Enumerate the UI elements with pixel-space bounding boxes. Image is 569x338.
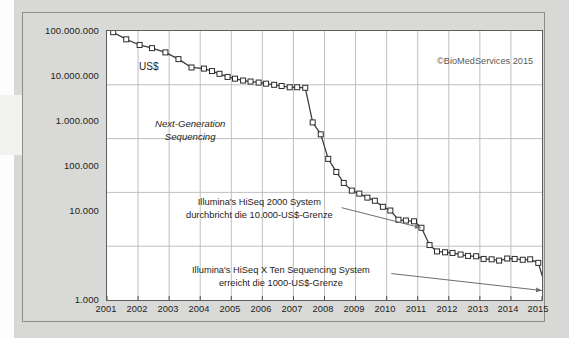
chart-canvas xyxy=(107,31,542,300)
x-tick-label: 2009 xyxy=(340,304,368,314)
x-tick-label: 2002 xyxy=(123,304,151,314)
y-tick-label: 100.000 xyxy=(27,160,99,171)
x-tick-label: 2005 xyxy=(216,304,244,314)
scan-page-edge xyxy=(0,0,14,338)
annotation-hiseq-2000-line2: durchbricht die 10.000-US$-Grenze xyxy=(186,210,333,220)
series-label: Next-Generation Sequencing xyxy=(155,117,225,143)
annotation-hiseq-x-ten: Illumina's HiSeq X Ten Sequencing System… xyxy=(192,264,370,289)
copyright-credit: ©BioMedServices 2015 xyxy=(437,56,533,66)
y-tick-label: 10.000 xyxy=(27,205,99,216)
y-tick-label: 1.000.000 xyxy=(27,115,99,126)
x-tick-label: 2004 xyxy=(185,304,213,314)
x-tick-label: 2010 xyxy=(371,304,399,314)
plot-area xyxy=(106,30,543,301)
annotation-hiseq-2000: Illumina's HiSeq 2000 System durchbricht… xyxy=(186,196,333,221)
annotation-hiseq-x-ten-line2: erreicht die 1000-US$-Grenze xyxy=(219,278,343,288)
x-tick-label: 2013 xyxy=(464,304,492,314)
annotation-hiseq-2000-line1: Illumina's HiSeq 2000 System xyxy=(198,197,321,207)
y-tick-label: 1.000 xyxy=(27,294,99,305)
series-label-line2: Sequencing xyxy=(165,131,216,142)
scan-page-edge-shadow xyxy=(0,95,22,155)
x-tick-label: 2008 xyxy=(309,304,337,314)
x-tick-label: 2015 xyxy=(524,304,552,314)
x-tick-label: 2014 xyxy=(494,304,522,314)
x-tick-label: 2006 xyxy=(247,304,275,314)
x-tick-label: 2011 xyxy=(402,304,430,314)
x-tick-label: 2001 xyxy=(92,304,120,314)
x-tick-label: 2003 xyxy=(154,304,182,314)
y-tick-label: 10.000.000 xyxy=(27,70,99,81)
annotation-hiseq-x-ten-line1: Illumina's HiSeq X Ten Sequencing System xyxy=(192,265,370,275)
x-tick-label: 2007 xyxy=(278,304,306,314)
page-background: 100.000.000 10.000.000 1.000.000 100.000… xyxy=(0,0,569,338)
currency-label: US$ xyxy=(139,61,158,72)
x-tick-label: 2012 xyxy=(433,304,461,314)
y-tick-label: 100.000.000 xyxy=(27,25,99,36)
series-label-line1: Next-Generation xyxy=(155,118,225,129)
chart-figure: 100.000.000 10.000.000 1.000.000 100.000… xyxy=(22,12,545,322)
